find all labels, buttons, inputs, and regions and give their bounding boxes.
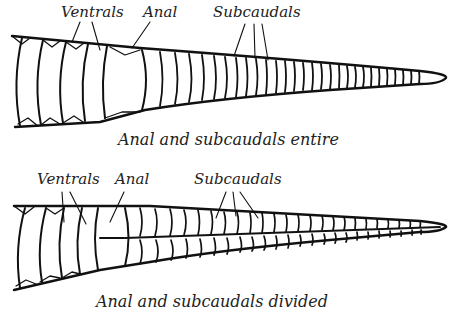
tail-entire-drawing (12, 22, 446, 127)
scale-drawings (0, 0, 455, 314)
tail-divided-drawing (14, 192, 446, 290)
scale-diagram: Ventrals Anal Subcaudals Anal and subcau… (0, 0, 455, 314)
